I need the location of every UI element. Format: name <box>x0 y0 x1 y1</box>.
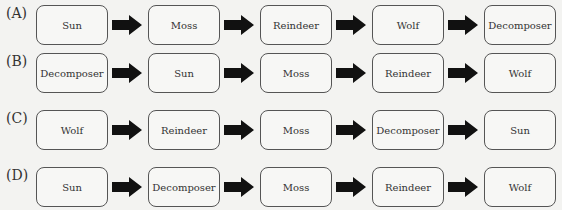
right-arrow-icon <box>224 177 254 197</box>
right-arrow-icon <box>224 15 254 35</box>
organism-box: Decomposer <box>484 5 556 45</box>
option-label: (D) <box>6 167 28 183</box>
organism-box: Wolf <box>484 167 556 207</box>
organism-box: Wolf <box>484 53 556 93</box>
organism-box: Decomposer <box>148 167 220 207</box>
option-label: (C) <box>6 110 28 126</box>
organism-box: Moss <box>260 167 332 207</box>
right-arrow-icon <box>336 15 366 35</box>
organism-box: Wolf <box>36 110 108 150</box>
organism-box: Sun <box>484 110 556 150</box>
right-arrow-icon <box>336 63 366 83</box>
option-row[interactable]: (B)DecomposerSunMossReindeerWolf <box>0 53 562 93</box>
right-arrow-icon <box>448 63 478 83</box>
right-arrow-icon <box>336 120 366 140</box>
organism-box: Sun <box>36 167 108 207</box>
right-arrow-icon <box>336 177 366 197</box>
organism-box: Sun <box>36 5 108 45</box>
organism-box: Sun <box>148 53 220 93</box>
right-arrow-icon <box>112 15 142 35</box>
option-row[interactable]: (A)SunMossReindeerWolfDecomposer <box>0 5 562 45</box>
organism-box: Moss <box>260 110 332 150</box>
option-row[interactable]: (D)SunDecomposerMossReindeerWolf <box>0 167 562 207</box>
organism-box: Reindeer <box>372 167 444 207</box>
right-arrow-icon <box>224 63 254 83</box>
organism-box: Reindeer <box>260 5 332 45</box>
organism-box: Moss <box>260 53 332 93</box>
right-arrow-icon <box>224 120 254 140</box>
option-label: (A) <box>6 5 27 21</box>
right-arrow-icon <box>448 177 478 197</box>
right-arrow-icon <box>112 120 142 140</box>
option-row[interactable]: (C)WolfReindeerMossDecomposerSun <box>0 110 562 150</box>
right-arrow-icon <box>448 120 478 140</box>
organism-box: Decomposer <box>372 110 444 150</box>
organism-box: Decomposer <box>36 53 108 93</box>
organism-box: Moss <box>148 5 220 45</box>
organism-box: Wolf <box>372 5 444 45</box>
organism-box: Reindeer <box>372 53 444 93</box>
right-arrow-icon <box>112 63 142 83</box>
right-arrow-icon <box>448 15 478 35</box>
option-label: (B) <box>6 53 27 69</box>
right-arrow-icon <box>112 177 142 197</box>
organism-box: Reindeer <box>148 110 220 150</box>
